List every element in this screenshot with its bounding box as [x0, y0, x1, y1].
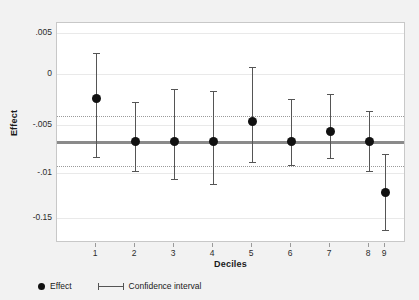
confidence-interval-cap-lower	[382, 230, 389, 231]
plot-area	[56, 22, 405, 242]
x-tick-label: 5	[244, 248, 258, 258]
chart-legend: Effect Confidence interval	[38, 281, 201, 291]
confidence-interval-whisker	[174, 89, 175, 179]
x-tick-label: 1	[88, 248, 102, 258]
y-tick-label: -.005	[33, 119, 52, 129]
confidence-interval-cap-upper	[382, 154, 389, 155]
confidence-interval-whisker	[96, 53, 97, 157]
x-axis-title: Deciles	[56, 259, 405, 269]
effect-point	[131, 137, 140, 146]
legend-label: Confidence interval	[129, 281, 202, 291]
gridline-y	[57, 74, 404, 75]
confidence-interval-cap-lower	[288, 165, 295, 166]
effect-point	[365, 137, 374, 146]
gridline-y	[57, 218, 404, 219]
x-tick-label: 9	[377, 248, 391, 258]
effect-point	[209, 137, 218, 146]
confidence-interval-cap-lower	[93, 157, 100, 158]
effect-point	[92, 94, 101, 103]
legend-item-confidence-interval: Confidence interval	[98, 281, 202, 291]
x-axis-tick-labels: 1 2 3 4 5 6 7 8 9	[56, 243, 405, 259]
x-tick-mark	[290, 243, 291, 247]
confidence-interval-whisker	[330, 94, 331, 158]
effect-point	[170, 137, 179, 146]
effect-point	[326, 127, 335, 136]
y-tick-label: .005	[35, 27, 52, 37]
filled-circle-icon	[38, 283, 45, 290]
confidence-interval-cap-upper	[288, 99, 295, 100]
confidence-interval-cap-lower	[366, 171, 373, 172]
confidence-interval-cap-lower	[171, 179, 178, 180]
confidence-interval-cap-upper	[327, 94, 334, 95]
y-axis-tick-labels: .005 0 -.005 -.01 -0.15	[6, 22, 52, 242]
legend-item-effect: Effect	[38, 281, 72, 291]
y-tick-label: -0.15	[33, 212, 52, 222]
x-tick-mark	[134, 243, 135, 247]
x-tick-mark	[368, 243, 369, 247]
capped-line-icon	[98, 283, 124, 290]
reference-line-ci-upper	[57, 116, 404, 117]
confidence-interval-cap-upper	[210, 91, 217, 92]
reference-line-ci-lower	[57, 166, 404, 167]
effect-point	[248, 117, 257, 126]
gridline-y	[57, 125, 404, 126]
x-tick-mark	[212, 243, 213, 247]
x-tick-mark	[329, 243, 330, 247]
confidence-interval-whisker	[252, 67, 253, 162]
x-tick-label: 4	[205, 248, 219, 258]
confidence-interval-cap-lower	[327, 158, 334, 159]
confidence-interval-cap-upper	[249, 67, 256, 68]
effect-point	[381, 188, 390, 197]
x-tick-mark	[251, 243, 252, 247]
confidence-interval-cap-upper	[93, 53, 100, 54]
legend-label: Effect	[50, 281, 72, 291]
x-tick-mark	[384, 243, 385, 247]
confidence-interval-cap-lower	[210, 184, 217, 185]
confidence-interval-cap-lower	[249, 162, 256, 163]
coefficient-plot-figure: Effect .005 0 -.005 -.01 -0.15	[0, 0, 419, 300]
reference-line-pooled-effect	[57, 141, 404, 144]
effect-point	[287, 137, 296, 146]
confidence-interval-cap-upper	[132, 102, 139, 103]
x-tick-label: 6	[283, 248, 297, 258]
x-tick-label: 2	[127, 248, 141, 258]
x-tick-label: 3	[166, 248, 180, 258]
x-tick-mark	[95, 243, 96, 247]
y-tick-label: 0	[47, 68, 52, 78]
confidence-interval-cap-upper	[171, 89, 178, 90]
confidence-interval-whisker	[291, 99, 292, 165]
x-tick-mark	[173, 243, 174, 247]
gridline-y	[57, 33, 404, 34]
gridline-y	[57, 173, 404, 174]
y-tick-label: -.01	[37, 167, 52, 177]
confidence-interval-cap-upper	[366, 111, 373, 112]
x-tick-label: 7	[322, 248, 336, 258]
x-tick-label: 8	[361, 248, 375, 258]
confidence-interval-cap-lower	[132, 171, 139, 172]
